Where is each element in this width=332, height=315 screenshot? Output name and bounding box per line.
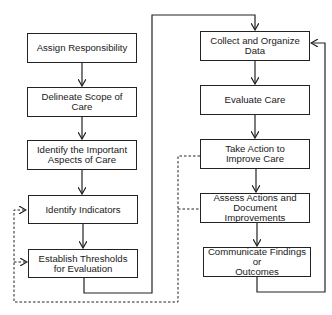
step-take-action: Take Action to Improve Care bbox=[200, 139, 310, 169]
step-assign-responsibility: Assign Responsibility bbox=[27, 33, 137, 63]
step-evaluate-care: Evaluate Care bbox=[200, 85, 310, 115]
step-establish-thresholds: Establish Thresholds for Evaluation bbox=[28, 249, 138, 278]
dashed-feedback-to-indicators bbox=[14, 156, 200, 302]
step-collect-data: Collect and Organize Data bbox=[200, 31, 310, 61]
step-communicate-findings: Communicate Findings or Outcomes bbox=[203, 247, 311, 277]
step-delineate-scope: Delineate Scope of Care bbox=[27, 87, 137, 117]
step-assess-actions: Assess Actions and Document Improvements bbox=[200, 193, 310, 223]
quality-assessment-flowchart: Assign Responsibility Delineate Scope of… bbox=[0, 0, 332, 315]
step-identify-indicators: Identify Indicators bbox=[28, 195, 138, 224]
step-identify-aspects: Identify the Important Aspects of Care bbox=[27, 140, 137, 170]
